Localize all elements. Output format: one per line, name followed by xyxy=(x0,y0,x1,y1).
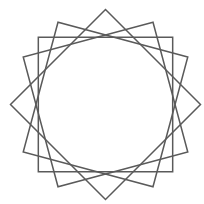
square-rot-30 xyxy=(23,22,188,187)
square-rot-60 xyxy=(23,22,188,187)
squares-group xyxy=(11,10,201,200)
rotated-squares-diagram xyxy=(0,0,204,204)
